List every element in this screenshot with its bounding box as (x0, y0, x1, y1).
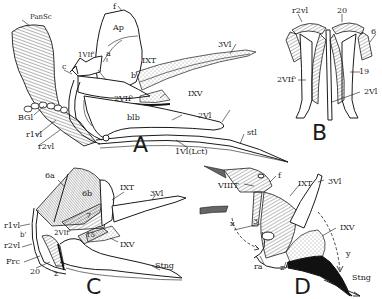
label-c-20: 20 (30, 268, 40, 276)
panel-letter-b: B (312, 122, 327, 144)
label-c-stng: Stng (155, 262, 174, 270)
label-d-ra: ra (254, 263, 263, 271)
label-a-r2vl: r2vl (38, 143, 54, 151)
label-d-f: f (278, 172, 281, 180)
label-d-viiit: VIIIT (218, 182, 239, 190)
panel-letter-d: D (294, 276, 311, 298)
label-a-ap: Ap (113, 24, 124, 32)
label-c-r1vl: r1vl (4, 222, 20, 230)
label-b-2vl: 2Vl (364, 88, 377, 96)
label-c-6b: 6b (82, 190, 92, 198)
label-a-pansc: PanSc (30, 14, 52, 21)
label-c-15: 15 (86, 232, 95, 239)
label-c-2vif: 2VIf' (54, 230, 71, 237)
label-d-ixv: IXV (340, 224, 355, 232)
label-b-2vif: 2VIf' (277, 76, 296, 84)
label-b-r2vl: r2vl (292, 7, 308, 15)
panel-a-drawing (12, 6, 288, 162)
label-c-7: 7 (86, 212, 91, 220)
label-c-b: b' (20, 232, 26, 239)
label-a-3vl: 3Vl (218, 41, 231, 49)
label-a-f: f (113, 3, 116, 11)
label-c-ixt: IXT (120, 184, 134, 192)
label-a-1vl-lct: 1Vl(Lct) (175, 148, 208, 156)
label-b-19: 19 (359, 68, 369, 76)
label-a-r1vl: r1vl (26, 131, 42, 139)
label-b-6: 6 (371, 28, 376, 36)
label-c-6a: 6a (45, 172, 55, 180)
label-c-r2vl: r2vl (4, 242, 20, 250)
label-c-3vl: 3Vl (150, 190, 163, 198)
label-a-b: b (131, 72, 136, 80)
label-a-a: a (106, 50, 111, 58)
anatomical-figure: PanSc f Ap c a 1VIf' IXT b 3Vl 2VIf' IXV… (0, 0, 382, 299)
label-d-y: y (346, 250, 351, 258)
label-a-c: c (62, 63, 66, 71)
label-a-1vif: 1VIf' (78, 52, 95, 59)
label-c-ixv: IXV (120, 241, 135, 249)
label-d-z: z (280, 264, 284, 272)
label-a-2vif: 2VIf' (114, 95, 133, 103)
label-b-20: 20 (337, 7, 347, 15)
label-d-3vl: 3Vl (328, 178, 341, 186)
label-a-blb: blb (127, 114, 140, 122)
label-d-stng: Stng (352, 274, 371, 282)
label-a-bgl: BGl (18, 114, 33, 122)
label-a-2vl: 2Vl (198, 112, 211, 120)
label-a-ixt: IXT (142, 57, 156, 65)
label-a-ixv: IXV (188, 90, 203, 98)
label-d-ixt: IXT (298, 180, 312, 188)
label-a-stl: stl (247, 129, 257, 137)
label-c-z: z (54, 270, 58, 278)
panel-letter-a: A (133, 134, 148, 156)
panel-letter-c: C (86, 276, 101, 298)
label-c-frc: Frc (6, 258, 20, 266)
label-d-3: 3 (253, 218, 258, 226)
label-d-x: x (230, 220, 235, 228)
